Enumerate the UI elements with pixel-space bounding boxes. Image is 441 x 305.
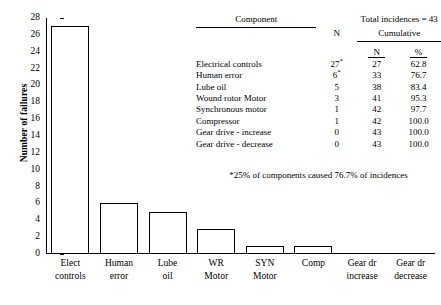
x-axis-tick-label-line: Comp — [289, 257, 338, 270]
cell-cumulative-pct: 95.3 — [396, 93, 441, 104]
x-axis-tick-label-line: decrease — [386, 270, 435, 283]
cell-cumulative-pct: 100.0 — [396, 116, 441, 127]
table-row: Gear drive - increase043100.0 — [196, 127, 441, 138]
y-axis-tick-mark — [60, 254, 64, 255]
table-row: Human error6*3376.7 — [196, 70, 441, 81]
x-axis-tick-label-line: Elect — [46, 257, 95, 270]
y-axis-tick-label: 26 — [18, 30, 40, 40]
cell-n: 0 — [316, 127, 357, 138]
cell-cumulative-pct: 100.0 — [396, 127, 441, 138]
header-total-incidences: Total incidences = 43 — [357, 14, 441, 25]
y-axis-tick-labels: 0246810121416182022242628 — [18, 18, 40, 253]
cell-cumulative-n: 43 — [357, 127, 396, 138]
y-axis-tick-label: 10 — [18, 165, 40, 175]
cell-n: 6* — [316, 70, 357, 81]
x-axis-tick-label-line: Human — [95, 257, 144, 270]
cell-component: Compressor — [196, 116, 316, 127]
cell-cumulative-pct: 100.0 — [396, 139, 441, 150]
x-axis-tick-labels: ElectcontrolsHumanerrorLubeoilWRMotorSYN… — [46, 257, 435, 301]
cell-n: 1 — [316, 116, 357, 127]
subheader-cumulative-pct: % — [396, 47, 441, 58]
header-spacer-1 — [316, 14, 357, 25]
table-row: Compressor142100.0 — [196, 116, 441, 127]
x-axis-tick-label-line: increase — [338, 270, 387, 283]
cell-cumulative-n: 42 — [357, 116, 396, 127]
x-axis-tick-label: Humanerror — [95, 257, 144, 283]
cell-n: 5 — [316, 82, 357, 93]
x-axis-tick-label-line: controls — [46, 270, 95, 283]
component-summary-table: Component Total incidences = 43 N Cumula… — [196, 14, 441, 150]
table-header-row-2: N Cumulative — [196, 28, 441, 39]
bar — [100, 203, 138, 254]
y-axis-tick-label: 14 — [18, 131, 40, 141]
cell-cumulative-n: 41 — [357, 93, 396, 104]
subheader-cumulative-pct-text: % — [410, 47, 428, 58]
x-axis-tick-label-line: Gear dr — [338, 257, 387, 270]
table-subheader-row: N % — [196, 47, 441, 58]
y-axis-tick-label: 18 — [18, 97, 40, 107]
x-axis-tick-label: Comp — [289, 257, 338, 270]
table-footnote: *25% of components caused 76.7% of incid… — [196, 170, 441, 180]
header-spacer-2 — [196, 28, 316, 39]
y-axis-tick-label: 16 — [18, 114, 40, 124]
cell-component: Synchronous motor — [196, 104, 316, 115]
x-axis-tick-label: Gear drdecrease — [386, 257, 435, 283]
subheader-spacer-1 — [196, 47, 316, 58]
x-axis-tick-label-line: Motor — [241, 270, 290, 283]
cell-n: 0 — [316, 139, 357, 150]
x-axis-tick-label-line: SYN — [241, 257, 290, 270]
cell-cumulative-pct: 83.4 — [396, 82, 441, 93]
cell-cumulative-pct: 76.7 — [396, 70, 441, 81]
x-axis-tick-label: Gear drincrease — [338, 257, 387, 283]
footnote-marker: * — [337, 68, 341, 76]
cell-component: Gear drive - decrease — [196, 139, 316, 150]
table-row: Lube oil53883.4 — [196, 82, 441, 93]
y-axis-tick-label: 12 — [18, 148, 40, 158]
y-axis-tick-label: 2 — [18, 232, 40, 242]
cell-n: 1 — [316, 104, 357, 115]
x-axis-tick-label-line: Gear dr — [386, 257, 435, 270]
y-axis-tick-label: 28 — [18, 13, 40, 23]
y-axis-tick-label: 24 — [18, 47, 40, 57]
subheader-spacer-2 — [316, 47, 357, 58]
y-axis-tick-label: 22 — [18, 64, 40, 74]
footnote-marker: * — [340, 57, 344, 65]
y-axis-tick-label: 20 — [18, 80, 40, 90]
cell-cumulative-n: 42 — [357, 104, 396, 115]
header-cumulative: Cumulative — [357, 28, 441, 39]
cell-component: Wound rotor Motor — [196, 93, 316, 104]
x-axis-tick-label: SYNMotor — [241, 257, 290, 283]
cell-cumulative-n: 43 — [357, 139, 396, 150]
x-axis-tick-label-line: error — [95, 270, 144, 283]
x-axis-tick-label: Lubeoil — [143, 257, 192, 283]
bar — [197, 229, 235, 254]
cell-component: Human error — [196, 70, 316, 81]
table-body: Electrical controls27*2762.8Human error6… — [196, 59, 441, 150]
bar — [51, 26, 89, 254]
subheader-cumulative-n-text: N — [368, 47, 385, 58]
x-axis-tick-label-line: WR — [192, 257, 241, 270]
bar — [246, 246, 284, 254]
cell-n: 3 — [316, 93, 357, 104]
bar — [294, 246, 332, 254]
subheader-cumulative-n: N — [357, 47, 396, 58]
header-component: Component — [196, 14, 316, 25]
y-axis-tick-label: 6 — [18, 198, 40, 208]
header-n: N — [316, 28, 357, 39]
cell-cumulative-pct: 62.8 — [396, 59, 441, 70]
x-axis-tick-label: Electcontrols — [46, 257, 95, 283]
x-axis-tick-label-line: Lube — [143, 257, 192, 270]
cell-component: Gear drive - increase — [196, 127, 316, 138]
pareto-chart-figure: Number of failures 024681012141618202224… — [0, 0, 441, 305]
cell-cumulative-pct: 97.7 — [396, 104, 441, 115]
y-axis-tick-label: 4 — [18, 215, 40, 225]
x-axis-tick-label-line: oil — [143, 270, 192, 283]
cell-component: Lube oil — [196, 82, 316, 93]
table-row: Synchronous motor14297.7 — [196, 104, 441, 115]
table-row: Wound rotor Motor34195.3 — [196, 93, 441, 104]
cell-cumulative-n: 33 — [357, 70, 396, 81]
table-row: Electrical controls27*2762.8 — [196, 59, 441, 70]
bar — [149, 212, 187, 254]
x-axis-tick-label: WRMotor — [192, 257, 241, 283]
cell-cumulative-n: 27 — [357, 59, 396, 70]
